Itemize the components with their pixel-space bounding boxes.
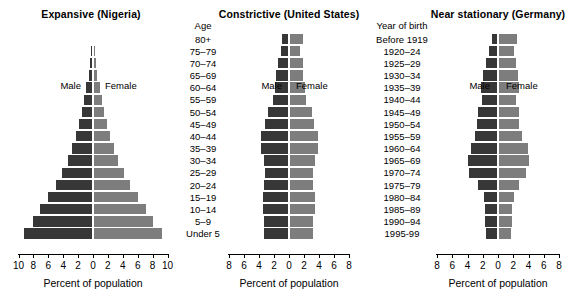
bar-female: [289, 155, 315, 165]
axis-tick: [78, 254, 79, 258]
axis-tick: [437, 254, 438, 258]
chart-panel-nigeria: Expansive (Nigeria) Male Female 10864202…: [0, 0, 186, 308]
bar-female: [93, 107, 104, 117]
bar-female: [498, 155, 529, 165]
center-axis-line-germany: [497, 33, 499, 252]
bar-female: [93, 180, 130, 190]
bar-female: [93, 131, 110, 141]
axis-tick: [153, 254, 154, 258]
axis-tick: [259, 254, 260, 258]
bar-male: [265, 119, 289, 129]
axis-tick: [304, 254, 305, 258]
population-pyramid-figure: Expansive (Nigeria) Male Female 10864202…: [0, 0, 588, 308]
axis-tick-label: 8: [340, 260, 358, 271]
bar-male: [263, 192, 289, 202]
axis-tick: [319, 254, 320, 258]
chart-title-nigeria: Expansive (Nigeria): [0, 8, 184, 20]
bar-female: [498, 95, 516, 105]
axis-tick: [349, 254, 350, 258]
axis-tick: [229, 254, 230, 258]
x-axis-title-germany: Percent of population: [428, 277, 568, 289]
bar-female: [289, 204, 315, 214]
bar-female: [498, 58, 516, 68]
axis-tick: [138, 254, 139, 258]
axis-tick: [334, 254, 335, 258]
bar-male: [79, 119, 93, 129]
bar-male: [484, 192, 498, 202]
plot-area-germany: Male Female: [428, 33, 568, 252]
axis-tick-label: 8: [550, 260, 568, 271]
bar-male: [469, 168, 498, 178]
bar-male: [477, 119, 498, 129]
axis-tick-label: 10: [159, 260, 177, 271]
bar-male: [72, 143, 93, 153]
bar-female: [289, 143, 318, 153]
bar-male: [478, 107, 498, 117]
bar-female: [289, 192, 315, 202]
legend-male-germany: Male: [469, 80, 490, 91]
legend-male-united-states: Male: [261, 80, 282, 91]
chart-panel-germany: Near stationary (Germany) Male Female 86…: [428, 0, 568, 308]
bar-male: [33, 216, 93, 226]
x-axis-title-united-states: Percent of population: [218, 277, 360, 289]
axis-tick: [33, 254, 34, 258]
legend-female-nigeria: Female: [105, 80, 137, 91]
axis-tick: [513, 254, 514, 258]
bar-female: [93, 95, 102, 105]
bar-male: [56, 180, 93, 190]
bar-male: [265, 168, 289, 178]
bar-male: [264, 180, 289, 190]
plot-area-united-states: Male Female: [218, 33, 360, 252]
bar-female: [289, 216, 313, 226]
axis-tick: [123, 254, 124, 258]
bar-female: [289, 168, 313, 178]
axis-tick: [544, 254, 545, 258]
bar-male: [263, 204, 289, 214]
axis-tick: [19, 254, 20, 258]
bar-male: [273, 95, 289, 105]
bar-female: [498, 180, 519, 190]
bar-female: [498, 119, 519, 129]
bar-female: [289, 95, 306, 105]
bar-male: [76, 131, 93, 141]
legend-female-germany: Female: [506, 80, 538, 91]
bar-female: [93, 155, 118, 165]
bar-female: [93, 119, 107, 129]
bar-female: [289, 228, 313, 238]
axis-tick: [93, 254, 94, 258]
bar-female: [289, 107, 312, 117]
bar-male: [261, 131, 290, 141]
center-axis-line-united-states: [288, 33, 290, 252]
axis-tick: [559, 254, 560, 258]
bar-female: [93, 216, 153, 226]
bar-female: [93, 143, 114, 153]
bar-male: [264, 155, 290, 165]
bar-female: [93, 82, 100, 92]
bar-female: [289, 131, 318, 141]
bar-male: [264, 228, 289, 238]
bar-female: [498, 131, 522, 141]
x-axis-title-nigeria: Percent of population: [0, 277, 186, 289]
bar-female: [289, 58, 303, 68]
bar-male: [261, 143, 290, 153]
bar-male: [475, 131, 498, 141]
axis-tick: [452, 254, 453, 258]
bar-female: [498, 204, 512, 214]
center-axis-line-nigeria: [92, 33, 94, 252]
bar-female: [289, 46, 300, 56]
axis-tick: [498, 254, 499, 258]
bar-female: [498, 228, 511, 238]
bar-male: [48, 192, 93, 202]
axis-tick: [108, 254, 109, 258]
axis-tick: [48, 254, 49, 258]
axis-tick: [289, 254, 290, 258]
chart-title-united-states: Constrictive (United States): [210, 8, 368, 20]
axis-tick: [274, 254, 275, 258]
legend-male-nigeria: Male: [60, 80, 81, 91]
bar-male: [482, 95, 498, 105]
axis-tick: [529, 254, 530, 258]
plot-area-nigeria: Male Female: [0, 33, 186, 252]
bar-female: [498, 216, 512, 226]
bar-female: [498, 143, 528, 153]
axis-tick: [168, 254, 169, 258]
